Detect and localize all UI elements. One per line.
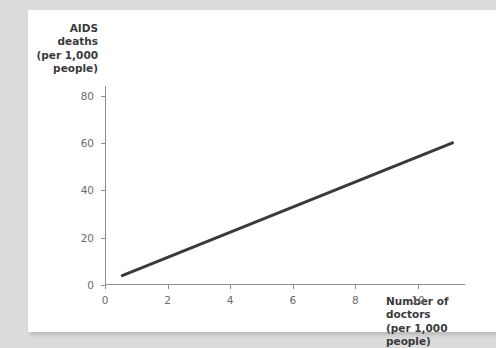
x-axis-title: Number of doctors (per 1,000 people) bbox=[386, 295, 486, 348]
y-tick-label-20: 20 bbox=[81, 232, 94, 244]
x-tick-label-6: 6 bbox=[289, 294, 296, 306]
trend-line-segment bbox=[122, 143, 452, 276]
plot-area: 0 20 40 60 80 0 2 4 bbox=[105, 86, 465, 285]
y-tick-label-60: 60 bbox=[81, 137, 94, 149]
x-tick-label-8: 8 bbox=[352, 294, 359, 306]
x-tick-label-10: 10 bbox=[411, 294, 424, 306]
x-tick-label-0: 0 bbox=[102, 294, 109, 306]
y-axis-title: AIDS deaths (per 1,000 people) bbox=[0, 22, 98, 76]
x-tick-label-2: 2 bbox=[164, 294, 171, 306]
y-tick-label-0: 0 bbox=[87, 279, 94, 291]
y-tick-label-40: 40 bbox=[81, 184, 94, 196]
x-tick-label-4: 4 bbox=[227, 294, 234, 306]
series-line-aids-deaths bbox=[105, 86, 465, 285]
y-tick-label-80: 80 bbox=[81, 90, 94, 102]
